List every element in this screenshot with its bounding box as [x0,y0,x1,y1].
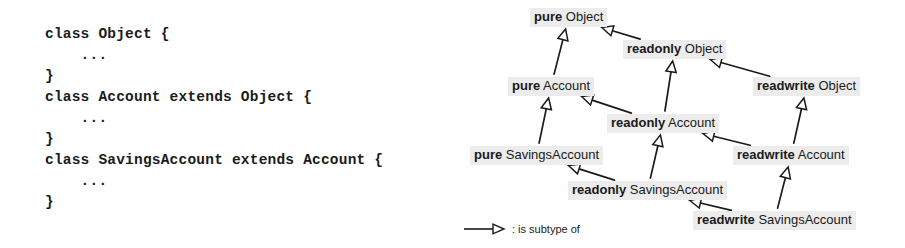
arrowhead-readonly-savingsaccount-to-pure-savingsaccount [569,164,581,174]
node-modifier: readwrite [737,147,795,162]
edge-readwrite-account-to-readwrite-object [794,109,802,143]
code-line: } [45,66,425,87]
node-class-name: SavingsAccount [755,212,852,227]
arrowhead-pure-savingsaccount-to-pure-account [541,98,551,110]
edge-readonly-account-to-readonly-object [665,72,671,111]
node-modifier: pure [474,147,502,162]
arrowhead-readwrite-savingsaccount-to-readwrite-account [780,167,790,179]
code-listing: class Object { ... } class Account exten… [45,24,425,213]
node-readonly-account: readonly Account [607,114,719,133]
subtype-lattice-diagram: pure Objectreadonly Objectreadwrite Obje… [455,0,905,248]
node-class-name: Object [815,78,856,93]
node-class-name: Account [665,115,715,130]
edge-readwrite-account-to-readonly-account [714,136,751,145]
arrowhead-readonly-object-to-pure-object [602,26,614,36]
edge-readwrite-savingsaccount-to-readwrite-account [778,178,786,209]
code-line: class Object { [45,24,425,45]
edge-pure-savingsaccount-to-pure-account [539,109,546,143]
node-class-name: SavingsAccount [502,147,599,162]
legend-label: : is subtype of [512,223,580,235]
edge-readonly-object-to-pure-object [612,31,640,39]
node-readwrite-savingsaccount: readwrite SavingsAccount [693,211,856,230]
node-pure-object: pure Object [530,8,607,27]
node-modifier: readwrite [697,212,755,227]
node-modifier: readonly [611,115,665,130]
open-triangle-arrow-icon [463,222,509,236]
edge-readonly-savingsaccount-to-pure-savingsaccount [579,169,615,180]
edge-readwrite-object-to-readonly-object [721,63,770,77]
legend: : is subtype of [463,222,580,236]
node-modifier: pure [512,78,540,93]
node-class-name: Object [562,9,603,24]
arrowhead-readonly-account-to-readonly-object [666,61,676,73]
edge-pure-account-to-pure-object [554,40,563,75]
code-line: } [45,129,425,150]
edge-readonly-savingsaccount-to-readonly-account [650,146,658,178]
node-class-name: SavingsAccount [626,182,723,197]
node-modifier: readonly [627,41,681,56]
arrowhead-readwrite-account-to-readwrite-object [796,98,806,110]
arrowhead-readonly-account-to-pure-account [582,95,594,105]
node-class-name: Account [540,78,590,93]
node-readonly-savingsaccount: readonly SavingsAccount [568,181,727,200]
code-line: class SavingsAccount extends Account { [45,150,425,171]
node-class-name: Object [681,41,722,56]
node-readwrite-object: readwrite Object [753,77,860,96]
edge-readonly-account-to-pure-account [592,100,631,113]
node-modifier: readwrite [757,78,815,93]
arrowhead-readwrite-object-to-readonly-object [710,58,722,68]
node-readonly-object: readonly Object [623,40,726,59]
arrowhead-readonly-savingsaccount-to-readonly-account [653,135,663,147]
code-line: class Account extends Object { [45,87,425,108]
node-pure-savingsaccount: pure SavingsAccount [470,146,603,165]
node-pure-account: pure Account [508,77,594,96]
node-modifier: readonly [572,182,626,197]
code-line: } [45,192,425,213]
code-line: ... [45,45,425,66]
arrowhead-pure-account-to-pure-object [558,29,568,41]
code-line: ... [45,108,425,129]
node-readwrite-account: readwrite Account [733,146,849,165]
node-modifier: pure [534,9,562,24]
figure-root: class Object { ... } class Account exten… [0,0,905,248]
node-class-name: Account [795,147,845,162]
code-line: ... [45,171,425,192]
edge-readwrite-savingsaccount-to-readonly-savingsaccount [700,203,731,210]
